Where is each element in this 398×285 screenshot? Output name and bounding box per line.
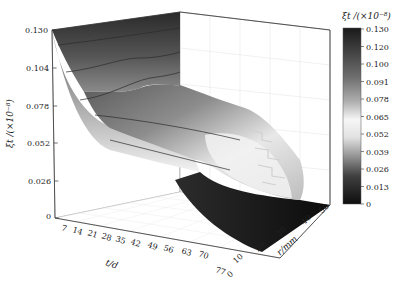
z-tick: 0.026 [28, 177, 51, 186]
colorbar-tick: 0.026 [366, 165, 389, 174]
colorbar-tick: 0 [366, 200, 371, 209]
colorbar-tick: 0.100 [366, 60, 389, 69]
t-tick: 35 [114, 234, 126, 246]
z-tick: 0 [46, 212, 51, 221]
colorbar-tick: 0.091 [366, 78, 389, 87]
colorbar-tick: 0.039 [366, 148, 389, 157]
colorbar-tick: 0.120 [366, 43, 389, 52]
colorbar-tick: 0.013 [366, 183, 389, 192]
colorbar-tick: 0.065 [366, 113, 389, 122]
z-tick: 0.052 [27, 139, 50, 148]
r-tick: 0 [225, 269, 235, 279]
t-tick: 42 [129, 237, 141, 249]
t-tick: 56 [162, 243, 174, 255]
t-axis-label: t/d [104, 257, 119, 270]
z-axis-label: ξt /(×10⁻⁸) [5, 99, 15, 148]
t-tick: 21 [86, 228, 98, 240]
colorbar-tick: 0.130 [366, 25, 389, 34]
colorbar-tick: 0.052 [366, 130, 389, 139]
z-tick: 0.104 [26, 64, 49, 73]
t-tick: 7 [60, 223, 68, 233]
z-axis: 0.130 0.104 0.078 0.052 0.026 0 ξt /(×10… [5, 26, 59, 221]
colorbar-tick: 0.078 [366, 95, 389, 104]
t-tick: 77 [214, 265, 226, 277]
r-tick: 10 [231, 252, 245, 266]
t-tick: 14 [71, 225, 83, 237]
t-tick: 28 [100, 231, 112, 243]
t-tick: 70 [197, 249, 209, 261]
colorbar: ξt /(×10⁻⁸) 0.130 0.120 0.100 0.091 0.07… [342, 11, 391, 209]
colorbar-label: ξt /(×10⁻⁸) [342, 11, 391, 21]
t-tick: 49 [146, 240, 158, 252]
z-tick: 0.078 [26, 102, 49, 111]
t-tick: 63 [180, 246, 192, 258]
z-tick: 0.130 [25, 26, 48, 35]
surface-chart: 0.130 0.104 0.078 0.052 0.026 0 ξt /(×10… [0, 0, 398, 285]
